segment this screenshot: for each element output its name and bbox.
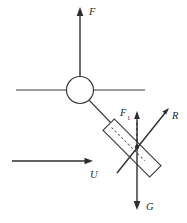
velocity-U-arrowhead <box>85 158 94 164</box>
force-F1-application-point <box>135 145 139 149</box>
force-diagram-figure: F F 1 U R G <box>0 0 187 223</box>
label-weight-G: G <box>146 201 154 212</box>
label-velocity-U: U <box>90 169 99 180</box>
inclined-plate <box>103 119 161 177</box>
force-F-arrow <box>77 7 84 77</box>
hub-circle <box>67 77 94 104</box>
connecting-rod <box>88 99 112 124</box>
label-force-F1: F <box>119 107 127 118</box>
reaction-R-arrowhead <box>162 108 169 115</box>
label-reaction-R: R <box>171 110 179 121</box>
force-F-arrowhead <box>77 7 84 16</box>
force-diagram-canvas: F F 1 U R G <box>0 0 187 223</box>
label-force-F: F <box>88 6 96 17</box>
weight-G-arrowhead <box>134 201 141 210</box>
label-force-F1-subscript: 1 <box>127 114 130 121</box>
velocity-U-arrow <box>12 158 93 164</box>
force-F1-arrowhead <box>134 111 140 119</box>
